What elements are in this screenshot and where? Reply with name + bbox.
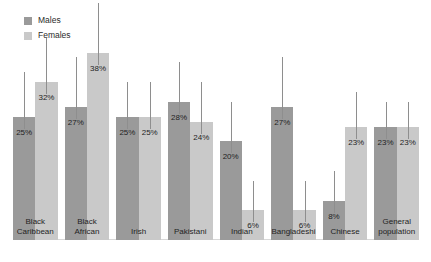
bar-value-label: 25% (139, 129, 161, 137)
bar-rect (168, 102, 190, 240)
bar-group: 20%6% (220, 18, 265, 240)
chart-legend: Males Females (24, 14, 71, 44)
bar-females: 6% (242, 18, 264, 240)
bar-value-label: 23% (345, 139, 367, 147)
legend-label-females: Females (38, 31, 71, 40)
bar-females: 25% (139, 18, 161, 240)
error-bar (282, 57, 283, 118)
bar-females: 32% (35, 18, 57, 240)
error-bar (150, 82, 151, 129)
error-bar (408, 102, 409, 139)
error-bar (201, 82, 202, 133)
bar-males: 25% (13, 18, 35, 240)
error-bar (98, 3, 99, 64)
error-bar (305, 181, 306, 223)
bar-males: 25% (116, 18, 138, 240)
square-swatch-icon (24, 32, 32, 40)
error-bar (356, 92, 357, 139)
error-bar (76, 57, 77, 118)
category-label: Chinese (323, 227, 368, 237)
bar-value-label: 23% (397, 139, 419, 147)
bar-group: 8%23% (323, 18, 368, 240)
category-label: General population (374, 217, 419, 236)
bar-group: 27%38% (65, 18, 110, 240)
bar-value-label: 8% (323, 213, 345, 221)
bar-value-label: 27% (65, 119, 87, 127)
bar-females: 24% (190, 18, 212, 240)
error-bar (231, 102, 232, 153)
error-bar (334, 171, 335, 213)
bar-value-label: 32% (35, 94, 57, 102)
plot-area: 25%32%27%38%25%25%28%24%20%6%27%6%8%23%2… (13, 18, 419, 240)
bar-males: 27% (271, 18, 293, 240)
error-bar (253, 181, 254, 223)
bar-value-label: 23% (374, 139, 396, 147)
square-swatch-icon (24, 17, 32, 25)
bar-value-label: 24% (190, 134, 212, 142)
legend-item-males: Males (24, 14, 71, 27)
bar-value-label: 38% (87, 65, 109, 73)
error-bar (127, 82, 128, 129)
bar-females: 6% (293, 18, 315, 240)
bar-group: 25%32% (13, 18, 58, 240)
error-bar (179, 62, 180, 113)
category-label: Bangladeshi (271, 227, 316, 237)
legend-item-females: Females (24, 29, 71, 42)
category-label: Pakistani (168, 227, 213, 237)
legend-label-males: Males (38, 16, 61, 25)
bar-males: 28% (168, 18, 190, 240)
bar-group: 25%25% (116, 18, 161, 240)
bar-value-label: 25% (116, 129, 138, 137)
category-label: Irish (116, 227, 161, 237)
error-bar (46, 38, 47, 94)
bar-chart: Males Females 25%32%27%38%25%25%28%24%20… (0, 0, 431, 262)
bar-value-label: 25% (13, 129, 35, 137)
bar-value-label: 20% (220, 153, 242, 161)
bar-group: 23%23% (374, 18, 419, 240)
category-label: Black African (65, 217, 110, 236)
bar-males: 27% (65, 18, 87, 240)
bar-value-label: 28% (168, 114, 190, 122)
bar-males: 20% (220, 18, 242, 240)
bar-females: 23% (397, 18, 419, 240)
bar-group: 27%6% (271, 18, 316, 240)
bar-males: 8% (323, 18, 345, 240)
error-bar (386, 102, 387, 139)
bar-males: 23% (374, 18, 396, 240)
category-label: Black Caribbean (13, 217, 58, 236)
bar-females: 23% (345, 18, 367, 240)
bar-group: 28%24% (168, 18, 213, 240)
category-label: Indian (220, 227, 265, 237)
bar-value-label: 27% (271, 119, 293, 127)
bar-rect (87, 53, 109, 240)
error-bar (24, 72, 25, 128)
bar-females: 38% (87, 18, 109, 240)
